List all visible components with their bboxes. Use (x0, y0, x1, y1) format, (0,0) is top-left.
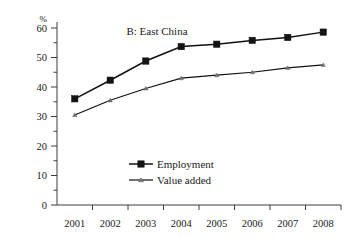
legend-label: Value added (157, 174, 212, 186)
y-tick-label: 50 (37, 52, 48, 63)
series-line-value-added (75, 65, 324, 115)
x-tick-label: 2002 (100, 218, 121, 229)
y-tick-label: 30 (37, 111, 48, 122)
data-point-marker (320, 29, 326, 35)
chart-title: B: East China (126, 25, 187, 37)
x-tick-label: 2004 (171, 218, 193, 229)
data-point-marker (214, 41, 220, 47)
legend-label: Employment (157, 158, 214, 170)
series-line-employment (75, 32, 324, 99)
x-tick-label: 2001 (64, 218, 85, 229)
data-point-marker (285, 34, 291, 40)
legend-marker (138, 161, 144, 167)
y-axis-ticks: 0102030405060 (37, 23, 58, 211)
y-tick-label: 60 (37, 23, 48, 34)
y-tick-label: 40 (37, 82, 48, 93)
data-point-marker (178, 43, 184, 49)
x-tick-label: 2007 (277, 218, 298, 229)
y-axis-unit-label: % (40, 14, 48, 24)
x-tick-label: 2005 (206, 218, 227, 229)
x-tick-label: 2008 (313, 218, 334, 229)
data-point-marker (72, 96, 78, 102)
x-axis-ticks: 20012002200320042005200620072008 (64, 205, 341, 229)
data-point-marker (143, 58, 149, 64)
chart-container: 0102030405060 20012002200320042005200620… (0, 0, 349, 247)
x-tick-label: 2003 (135, 218, 156, 229)
line-chart: 0102030405060 20012002200320042005200620… (0, 0, 349, 247)
chart-legend: EmploymentValue added (129, 158, 214, 186)
y-tick-label: 20 (37, 141, 48, 152)
data-series-group (72, 29, 327, 117)
data-point-marker (249, 37, 255, 43)
x-tick-label: 2006 (242, 218, 263, 229)
y-tick-label: 10 (37, 170, 48, 181)
data-point-marker (107, 77, 113, 83)
y-tick-label: 0 (42, 200, 47, 211)
